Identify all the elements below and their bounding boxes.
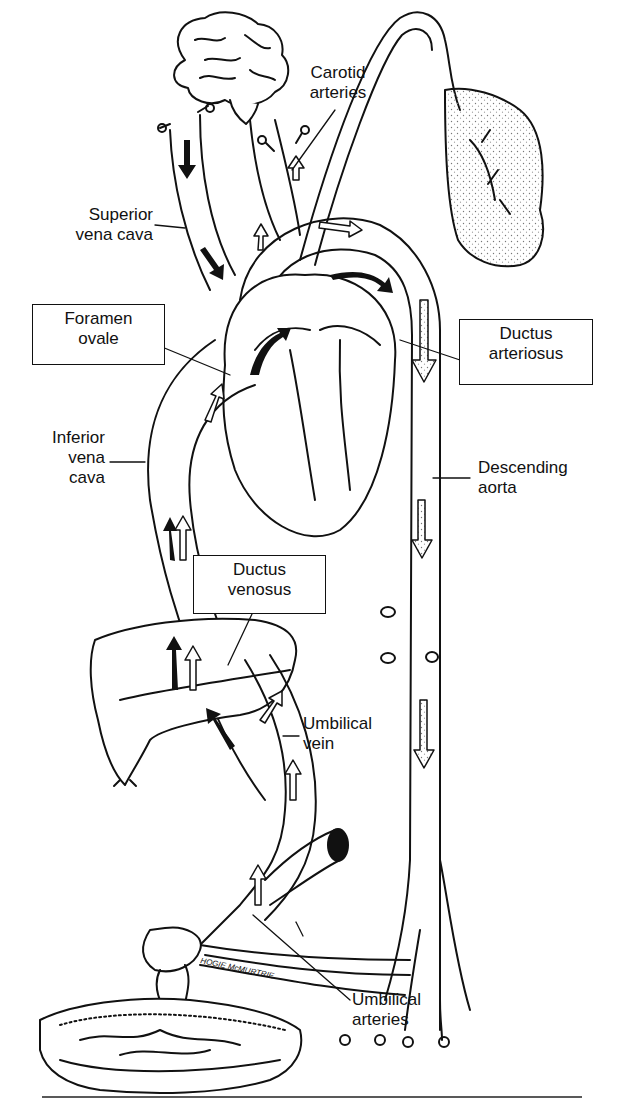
label-line: Carotid <box>298 63 378 83</box>
label-line: arteries <box>298 83 378 103</box>
label-descending-aorta: Descending aorta <box>478 458 598 498</box>
label-inferior-vena-cava: Inferior vena cava <box>30 428 105 488</box>
label-line: vein <box>303 734 393 754</box>
label-ductus-venosus: Ductus venosus <box>193 555 326 614</box>
label-line: ovale <box>33 329 164 349</box>
label-foramen-ovale: Foramen ovale <box>32 304 165 365</box>
label-line: Inferior <box>30 428 105 448</box>
label-line: arteriosus <box>460 344 592 364</box>
label-line: vena cava <box>58 225 153 245</box>
label-line: Superior <box>58 205 153 225</box>
label-line: Foramen <box>33 309 164 329</box>
brain-icon <box>174 12 288 124</box>
label-ductus-arteriosus: Ductus arteriosus <box>459 319 593 385</box>
label-line: Ductus <box>460 324 592 344</box>
label-line: Ductus <box>194 560 325 580</box>
label-line: vena <box>30 448 105 468</box>
label-line: venosus <box>194 580 325 600</box>
label-line: aorta <box>478 478 598 498</box>
label-superior-vena-cava: Superior vena cava <box>58 205 153 245</box>
label-line: Umbilical <box>303 714 393 734</box>
label-carotid-arteries: Carotid arteries <box>298 63 378 103</box>
label-umbilical-arteries: Umbilical arteries <box>352 990 442 1030</box>
label-line: cava <box>30 468 105 488</box>
label-umbilical-vein: Umbilical vein <box>303 714 393 754</box>
label-line: arteries <box>352 1010 442 1030</box>
label-line: Descending <box>478 458 598 478</box>
label-line: Umbilical <box>352 990 442 1010</box>
fetal-circulation-illustration: HOGIE McMURTRIE <box>0 0 626 1105</box>
